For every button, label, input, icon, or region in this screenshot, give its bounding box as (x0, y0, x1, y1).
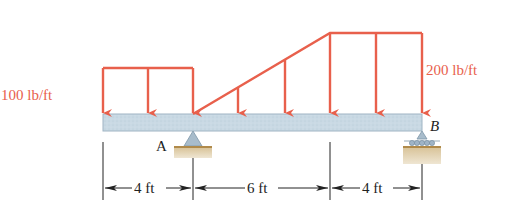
dimension-label-1: 4 ft (134, 180, 155, 196)
pin-support-a (174, 131, 212, 158)
right-load-label: 200 lb/ft (426, 62, 478, 78)
distributed-load (103, 33, 422, 114)
dimension-label-3: 4 ft (362, 180, 383, 196)
dimension-label-2: 6 ft (247, 180, 268, 196)
roller-support-b (403, 131, 441, 164)
beam-diagram: 100 lb/ft 200 lb/ft A B 4 ft 6 ft (0, 0, 521, 205)
support-a-label: A (156, 138, 167, 154)
beam (103, 114, 422, 131)
support-b-label: B (430, 118, 439, 134)
left-load-label: 100 lb/ft (1, 87, 53, 103)
